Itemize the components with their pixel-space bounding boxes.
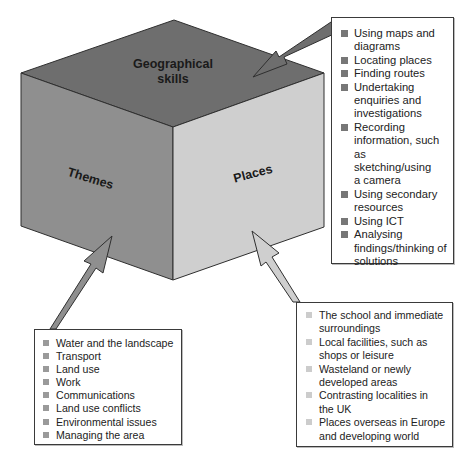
list-item: Finding routes [338,67,449,80]
list-item: Recordinginformation, such assketching/u… [338,121,449,188]
list-item: Environmental issues [40,416,177,429]
square-bullet-icon [43,353,49,359]
square-bullet-icon [306,339,312,345]
themes-list: Water and the landscape Transport Land u… [40,337,177,442]
list-item: Contrasting localities inthe UK [303,389,448,416]
square-bullet-icon [306,312,312,318]
geographical-skills-label: Geographical skills [110,57,236,86]
list-item: Land use [40,363,177,376]
list-item: Undertakingenquiries andinvestigations [338,81,449,121]
square-bullet-icon [341,124,348,131]
list-item: Work [40,376,177,389]
square-bullet-icon [341,231,348,238]
square-bullet-icon [43,405,49,411]
square-bullet-icon [43,432,49,438]
square-bullet-icon [306,419,312,425]
list-item: Locating places [338,54,449,67]
places-list: The school and immediatesurroundings Loc… [303,309,448,443]
square-bullet-icon [43,392,49,398]
square-bullet-icon [43,419,49,425]
square-bullet-icon [341,218,348,225]
list-item: The school and immediatesurroundings [303,309,448,336]
square-bullet-icon [341,84,348,91]
list-item: Using maps anddiagrams [338,27,449,54]
square-bullet-icon [43,379,49,385]
list-item: Wasteland or newlydeveloped areas [303,363,448,390]
square-bullet-icon [306,392,312,398]
list-item: Local facilities, such asshops or leisur… [303,336,448,363]
list-item: Transport [40,350,177,363]
label-line-2: skills [110,72,236,87]
list-item: Managing the area [40,429,177,442]
square-bullet-icon [341,191,348,198]
skills-list: Using maps anddiagrams Locating places F… [338,27,449,268]
list-item: Land use conflicts [40,402,177,415]
square-bullet-icon [341,57,348,64]
places-box: The school and immediatesurroundings Loc… [296,302,453,447]
list-item: Using secondaryresources [338,188,449,215]
list-item: Places overseas in Europeand developing … [303,416,448,443]
label-line-1: Geographical [110,57,236,72]
themes-box: Water and the landscape Transport Land u… [34,329,182,445]
list-item: Communications [40,389,177,402]
arrow-to-themes [50,236,112,329]
list-item: Analysingfindings/thinking ofsolutions [338,228,449,268]
list-item: Using ICT [338,215,449,228]
geographical-skills-box: Using maps anddiagrams Locating places F… [331,17,454,264]
square-bullet-icon [43,340,49,346]
list-item: Water and the landscape [40,337,177,350]
square-bullet-icon [341,70,348,77]
square-bullet-icon [306,366,312,372]
square-bullet-icon [341,30,348,37]
square-bullet-icon [43,366,49,372]
